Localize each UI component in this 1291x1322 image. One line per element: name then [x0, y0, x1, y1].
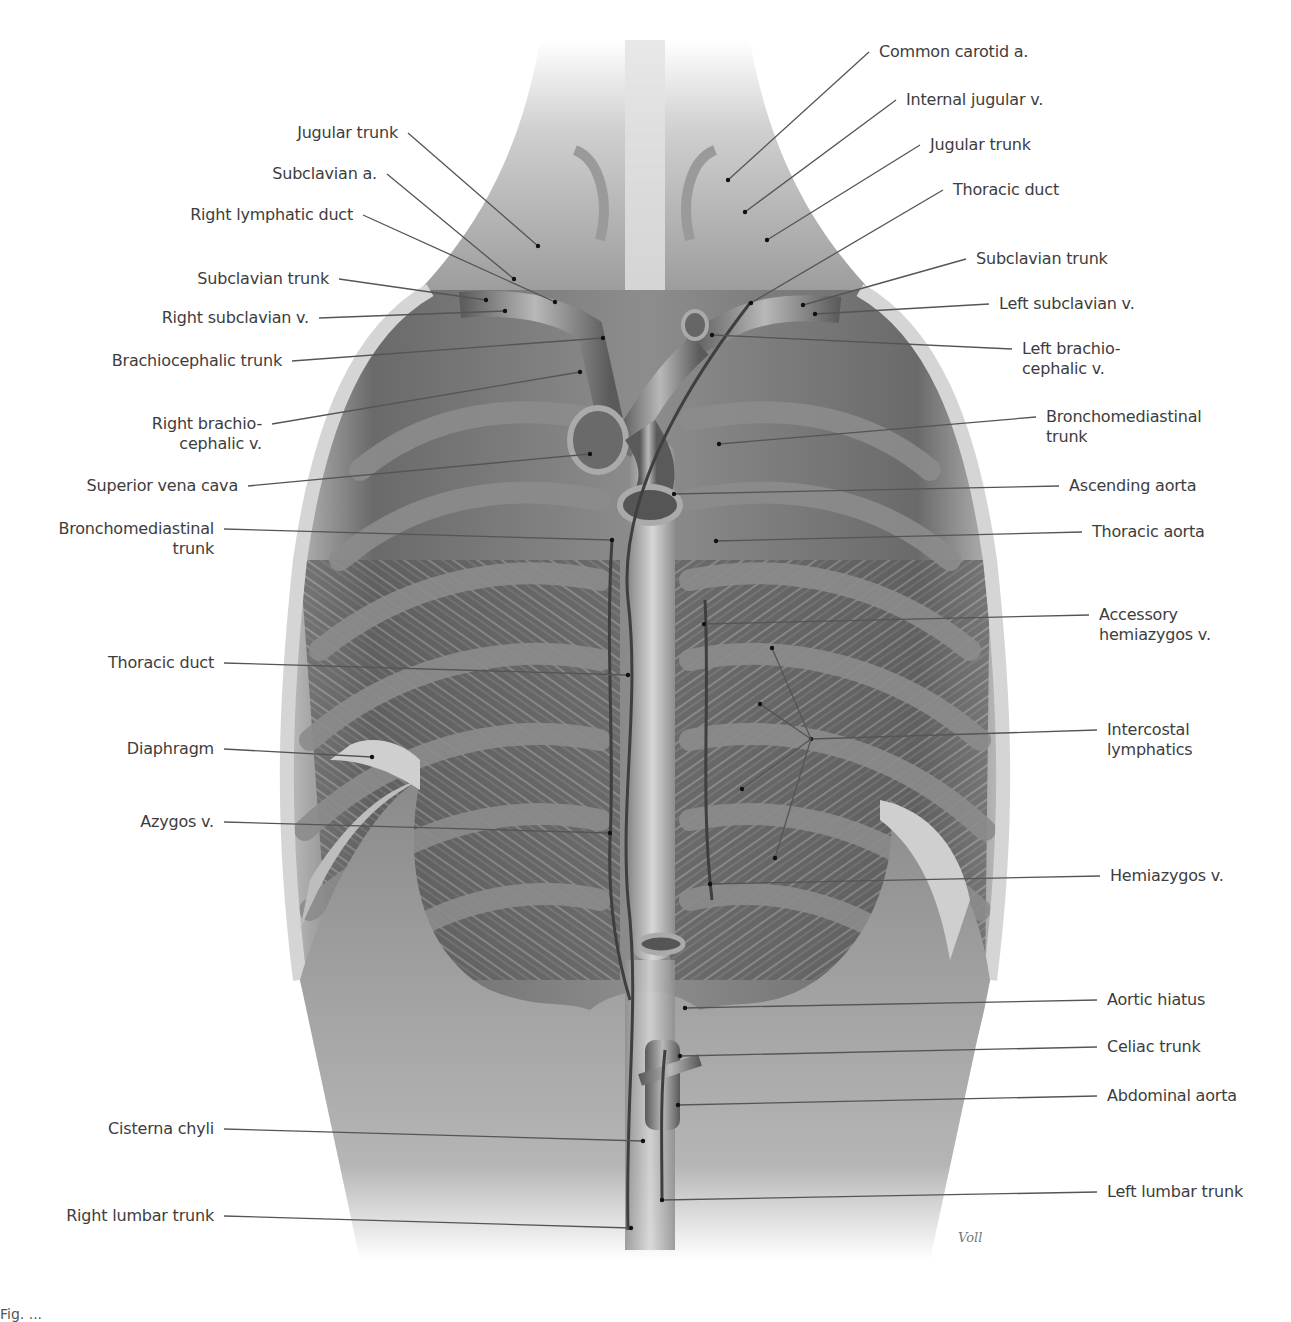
label-thoracic-aorta: Thoracic aorta	[1092, 522, 1205, 542]
leader-dot	[758, 702, 762, 706]
leader-dot	[629, 1226, 633, 1230]
leader-dot	[676, 1103, 680, 1107]
label-azygos-v: Azygos v.	[140, 812, 214, 832]
leader-dot	[588, 452, 592, 456]
label-aortic-hiatus: Aortic hiatus	[1107, 990, 1205, 1010]
leader-dot	[626, 673, 630, 677]
leader-dot	[370, 755, 374, 759]
label-internal-jugular-v: Internal jugular v.	[906, 90, 1043, 110]
label-brachiocephalic-trunk: Brachiocephalic trunk	[112, 351, 282, 371]
leader-dot	[714, 539, 718, 543]
label-thoracic-duct-top: Thoracic duct	[953, 180, 1059, 200]
figure-caption: Fig. ...	[0, 1306, 42, 1322]
leader-dot	[536, 244, 540, 248]
label-thoracic-duct-left-side: Thoracic duct	[108, 653, 214, 673]
label-celiac-trunk: Celiac trunk	[1107, 1037, 1201, 1057]
label-subclavian-a: Subclavian a.	[272, 164, 377, 184]
label-hemiazygos-v: Hemiazygos v.	[1110, 866, 1224, 886]
leader-dot	[749, 301, 753, 305]
leader-dot	[743, 210, 747, 214]
label-superior-vena-cava: Superior vena cava	[87, 476, 238, 496]
leader-dot	[601, 336, 605, 340]
leader-dot	[683, 1006, 687, 1010]
leader-dot	[765, 238, 769, 242]
label-diaphragm: Diaphragm	[127, 739, 214, 759]
leader-dot	[773, 856, 777, 860]
leader-dot	[770, 646, 774, 650]
artist-signature: Voll	[958, 1230, 982, 1245]
aorta-opening	[620, 487, 680, 523]
leader-dot	[578, 370, 582, 374]
leader-dot	[484, 298, 488, 302]
leader-dot	[512, 277, 516, 281]
leader-dot	[702, 622, 706, 626]
leader-dot	[813, 312, 817, 316]
leader-dot	[726, 178, 730, 182]
label-left-brachiocephalic-v: Left brachio- cephalic v.	[1022, 339, 1120, 379]
label-ascending-aorta: Ascending aorta	[1069, 476, 1196, 496]
label-jugular-trunk-right: Jugular trunk	[297, 123, 398, 143]
label-subclavian-trunk-left: Subclavian trunk	[976, 249, 1108, 269]
label-bronchomediastinal-trunk-right: Bronchomediastinal trunk	[58, 519, 214, 559]
leader-dot	[740, 787, 744, 791]
label-jugular-trunk-left: Jugular trunk	[930, 135, 1031, 155]
leader-dot	[717, 442, 721, 446]
label-right-lumbar-trunk: Right lumbar trunk	[66, 1206, 214, 1226]
superior-vena-cava-opening	[570, 408, 626, 472]
label-accessory-hemiazygos-v: Accessory hemiazygos v.	[1099, 605, 1211, 645]
label-cisterna-chyli: Cisterna chyli	[108, 1119, 214, 1139]
label-abdominal-aorta: Abdominal aorta	[1107, 1086, 1237, 1106]
leader-dot	[610, 538, 614, 542]
label-right-subclavian-v: Right subclavian v.	[162, 308, 309, 328]
label-common-carotid-a: Common carotid a.	[879, 42, 1028, 62]
leader-dot	[608, 831, 612, 835]
leader-dot	[801, 303, 805, 307]
label-bronchomediastinal-trunk-left: Bronchomediastinal trunk	[1046, 407, 1202, 447]
label-intercostal-lymphatics: Intercostal lymphatics	[1107, 720, 1192, 760]
label-right-lymphatic-duct: Right lymphatic duct	[190, 205, 353, 225]
leader-dot	[708, 882, 712, 886]
label-right-brachiocephalic-v: Right brachio- cephalic v.	[152, 414, 262, 454]
leader-dot	[660, 1198, 664, 1202]
leader-dot	[641, 1139, 645, 1143]
label-subclavian-trunk-right: Subclavian trunk	[197, 269, 329, 289]
leader-dot	[553, 300, 557, 304]
leader-dot	[503, 309, 507, 313]
label-left-lumbar-trunk: Left lumbar trunk	[1107, 1182, 1243, 1202]
leader-dot	[710, 333, 714, 337]
label-left-subclavian-v: Left subclavian v.	[999, 294, 1135, 314]
leader-dot	[678, 1054, 682, 1058]
leader-dot	[672, 492, 676, 496]
